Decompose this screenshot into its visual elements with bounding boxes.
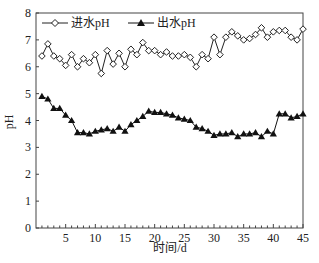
diamond-marker-icon bbox=[193, 63, 200, 70]
y-tick-label: 1 bbox=[25, 194, 31, 208]
diamond-marker-icon bbox=[175, 53, 182, 60]
diamond-marker-icon bbox=[300, 26, 307, 33]
triangle-marker-icon bbox=[204, 128, 211, 134]
triangle-marker-icon bbox=[145, 107, 152, 113]
triangle-marker-icon bbox=[264, 128, 271, 134]
diamond-marker-icon bbox=[205, 55, 212, 62]
y-tick-label: 6 bbox=[25, 60, 31, 74]
diamond-marker-icon bbox=[234, 33, 241, 40]
triangle-marker-icon bbox=[299, 110, 306, 116]
diamond-marker-icon bbox=[240, 37, 247, 44]
line-chart: 012345678 51015202530354045 pH 时间/d 进水pH… bbox=[0, 0, 319, 263]
diamond-marker-icon bbox=[98, 70, 105, 77]
legend-label-effluent: 出水pH bbox=[157, 16, 196, 30]
y-tick-label: 4 bbox=[25, 114, 31, 128]
legend-item-influent: 进水pH bbox=[42, 16, 110, 30]
diamond-marker-icon bbox=[211, 34, 218, 41]
y-tick-label: 5 bbox=[25, 87, 31, 101]
y-tick-label: 7 bbox=[25, 33, 31, 47]
x-tick-label: 10 bbox=[89, 231, 101, 245]
triangle-marker-icon bbox=[104, 125, 111, 131]
diamond-marker-icon bbox=[122, 63, 129, 70]
diamond-marker-icon bbox=[39, 53, 46, 60]
diamond-marker-icon bbox=[217, 51, 224, 58]
x-tick-label: 15 bbox=[119, 231, 131, 245]
triangle-marker-icon bbox=[127, 121, 134, 127]
legend-item-effluent: 出水pH bbox=[128, 16, 196, 30]
triangle-marker-icon bbox=[228, 129, 235, 135]
y-axis-title: pH bbox=[2, 114, 16, 129]
diamond-marker-icon bbox=[199, 51, 206, 58]
legend: 进水pH 出水pH bbox=[42, 16, 196, 30]
triangle-marker-icon bbox=[293, 113, 300, 119]
triangle-marker-icon bbox=[115, 124, 122, 130]
diamond-marker-icon bbox=[52, 20, 59, 27]
y-tick-label: 3 bbox=[25, 140, 31, 154]
triangle-marker-icon bbox=[110, 128, 117, 134]
diamond-marker-icon bbox=[68, 51, 75, 58]
triangle-marker-icon bbox=[44, 95, 51, 101]
plot-frame bbox=[36, 13, 303, 228]
triangle-marker-icon bbox=[270, 130, 277, 136]
triangle-marker-icon bbox=[234, 133, 241, 139]
triangle-marker-icon bbox=[252, 129, 259, 135]
legend-label-influent: 进水pH bbox=[71, 16, 110, 30]
y-tick-label: 0 bbox=[25, 221, 31, 235]
y-axis: 012345678 bbox=[25, 6, 39, 235]
triangle-marker-icon bbox=[175, 114, 182, 120]
x-tick-label: 35 bbox=[238, 231, 250, 245]
diamond-marker-icon bbox=[45, 41, 52, 48]
diamond-marker-icon bbox=[110, 61, 117, 68]
diamond-marker-icon bbox=[151, 47, 158, 54]
x-tick-label: 30 bbox=[208, 231, 220, 245]
triangle-marker-icon bbox=[133, 117, 140, 123]
diamond-marker-icon bbox=[246, 35, 253, 42]
x-tick-label: 45 bbox=[297, 231, 309, 245]
diamond-marker-icon bbox=[104, 47, 111, 54]
y-tick-label: 8 bbox=[25, 6, 31, 20]
x-axis-title: 时间/d bbox=[153, 241, 186, 255]
x-tick-label: 5 bbox=[63, 231, 69, 245]
series-layer bbox=[38, 24, 306, 139]
y-tick-label: 2 bbox=[25, 167, 31, 181]
x-tick-label: 40 bbox=[267, 231, 279, 245]
triangle-marker-icon bbox=[38, 93, 45, 99]
diamond-marker-icon bbox=[116, 50, 123, 57]
